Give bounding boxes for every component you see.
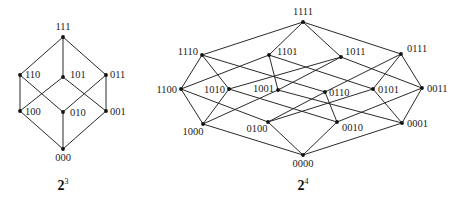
node-101 xyxy=(61,75,65,79)
node-000 xyxy=(61,147,65,151)
node-label-101: 101 xyxy=(70,69,86,80)
node-label-011: 011 xyxy=(110,69,125,80)
node-011 xyxy=(104,73,108,77)
lattice-2-4-diagram: 1111111011011011011111001010100101100101… xyxy=(156,6,447,193)
node-0010 xyxy=(335,120,339,124)
node-1110 xyxy=(200,53,204,57)
edge-1001-1000 xyxy=(203,90,278,124)
edge-0010-0000 xyxy=(303,122,337,155)
node-0000 xyxy=(301,153,305,157)
node-label-1010: 1010 xyxy=(204,84,225,95)
caption-base: 2 xyxy=(58,178,65,193)
edge-1111-1011 xyxy=(303,22,341,57)
node-label-1110: 1110 xyxy=(178,46,198,57)
node-label-0010: 0010 xyxy=(342,122,363,133)
lattice-2-3-diagram: 111110101011100010001000 23 xyxy=(18,21,126,193)
node-1010 xyxy=(227,87,231,91)
node-0001 xyxy=(400,121,404,125)
node-0101 xyxy=(371,87,375,91)
node-010 xyxy=(61,110,65,114)
node-0110 xyxy=(323,90,327,94)
node-111 xyxy=(61,35,65,39)
node-label-1100: 1100 xyxy=(156,84,177,95)
node-100 xyxy=(18,109,22,113)
caption-base: 2 xyxy=(298,178,305,193)
lattice-2-3-edges xyxy=(20,37,106,149)
node-label-0111: 0111 xyxy=(407,43,427,54)
node-0011 xyxy=(420,86,424,90)
node-1001 xyxy=(276,88,280,92)
node-label-0110: 0110 xyxy=(329,87,350,98)
edge-1110-1100 xyxy=(181,55,202,89)
node-label-0000: 0000 xyxy=(293,158,314,169)
node-label-1111: 1111 xyxy=(293,6,313,17)
node-label-1000: 1000 xyxy=(183,126,204,137)
boolean-lattice-figure: 111110101011100010001000 23 111111101101… xyxy=(0,0,462,203)
node-1011 xyxy=(339,55,343,59)
node-110 xyxy=(18,73,22,77)
node-label-1101: 1101 xyxy=(277,46,298,57)
caption-exponent: 4 xyxy=(305,177,309,186)
node-label-000: 000 xyxy=(55,152,71,163)
node-label-0001: 0001 xyxy=(407,118,428,129)
node-label-010: 010 xyxy=(70,107,86,118)
node-label-111: 111 xyxy=(56,21,71,32)
node-label-100: 100 xyxy=(25,106,41,117)
node-0111 xyxy=(399,52,403,56)
edge-1100-1000 xyxy=(181,89,203,124)
node-1100 xyxy=(179,87,183,91)
node-label-110: 110 xyxy=(25,69,40,80)
edge-0111-0011 xyxy=(401,54,422,88)
edge-1011-1001 xyxy=(278,57,341,90)
edge-1101-0101 xyxy=(269,55,373,89)
node-label-1001: 1001 xyxy=(253,83,274,94)
lattice-2-4-caption: 24 xyxy=(298,177,309,193)
lattice-2-4-labels: 1111111011011011011111001010100101100101… xyxy=(156,6,447,169)
node-label-001: 001 xyxy=(110,106,126,117)
node-1111 xyxy=(301,20,305,24)
node-001 xyxy=(104,109,108,113)
node-label-0101: 0101 xyxy=(378,84,399,95)
node-label-1011: 1011 xyxy=(345,46,366,57)
caption-exponent: 3 xyxy=(65,177,69,186)
node-1101 xyxy=(267,53,271,57)
lattice-2-3-caption: 23 xyxy=(58,177,69,193)
node-label-0011: 0011 xyxy=(427,83,448,94)
node-label-0100: 0100 xyxy=(247,123,268,134)
